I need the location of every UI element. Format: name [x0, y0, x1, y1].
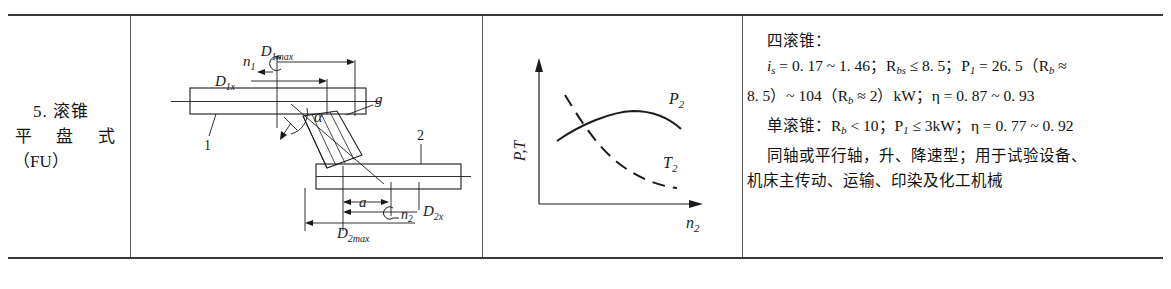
chart-series-t2-curve [565, 95, 677, 188]
diagram-label-d1max: D1max [260, 43, 294, 62]
diagram-label-d2x: D2x [422, 203, 444, 222]
chart-legend-t2: T2 [663, 154, 678, 174]
chart-legend-p2: P2 [668, 90, 685, 110]
diagram-label-d2max: D2max [336, 225, 370, 244]
chart-series-p2-curve [557, 111, 681, 141]
spec-line1-rest4: ≈ [1054, 57, 1066, 74]
diagram-label-a: a [359, 194, 367, 210]
spec-line3-mid: < 10；P [847, 117, 904, 134]
chart-y-axis-label: P,T [511, 140, 528, 163]
performance-chart-svg: P,T n2 P2 T2 [483, 16, 742, 257]
chart-y-axis-arrowhead [535, 58, 543, 72]
cell-type-name: 5. 滚锥 平 盘 式 （FU） [9, 16, 129, 257]
spec-line-ratio: is = 0. 17 ~ 1. 46；Rbs ≤ 8. 5；P1 = 26. 5… [747, 53, 1157, 83]
spec-line1-rest3: = 26. 5（R [975, 57, 1049, 74]
diagram-label-part-1: 1 [204, 138, 211, 153]
diagram-label-part-2: 2 [417, 128, 424, 143]
diagram-label-n1: n1 [243, 53, 256, 72]
spec-line3-prefix: 单滚锥：R [767, 117, 841, 134]
type-name-line-2: 平 盘 式 [9, 124, 129, 149]
spec-line1-rest2: ≤ 8. 5；P [906, 57, 970, 74]
diagram-label-alpha: α [314, 108, 323, 125]
spec-line-power-range: 8. 5）~ 104（Rb ≈ 2）kW；η = 0. 87 ~ 0. 93 [747, 83, 1157, 113]
cell-mechanical-diagram: D1max D1x n1 α g 1 2 a n2 D2x [131, 16, 482, 257]
diagram-label-g: g [375, 91, 383, 107]
mechanical-schematic-svg: D1max D1x n1 α g 1 2 a n2 D2x [131, 16, 482, 257]
spec-symbol-rbs-sub: bs [896, 65, 905, 76]
cell-specification-text: 四滚锥： is = 0. 17 ~ 1. 46；Rbs ≤ 8. 5；P1 = … [743, 16, 1163, 257]
spec-heading-four-cone: 四滚锥： [747, 28, 1157, 53]
spec-line2-rest: ≈ 2）kW；η = 0. 87 ~ 0. 93 [853, 87, 1034, 104]
type-name-line-1: 5. 滚锥 [9, 99, 129, 124]
type-name-line-3: （FU） [9, 149, 129, 174]
table-bottom-rule [8, 257, 1163, 259]
diagram-label-d1x: D1x [214, 73, 236, 92]
spec-line-application-1: 同轴或平行轴，升、降速型；用于试验设备、 [747, 143, 1157, 168]
cell-performance-chart: P,T n2 P2 T2 [483, 16, 742, 257]
spec-line3-rest: ≤ 3kW；η = 0. 77 ~ 0. 92 [909, 117, 1074, 134]
spec-line-single-cone: 单滚锥：Rb < 10；P1 ≤ 3kW；η = 0. 77 ~ 0. 92 [747, 113, 1157, 143]
spec-line2-start: 8. 5）~ 104（R [747, 87, 848, 104]
diagram-label-n2: n2 [401, 207, 413, 224]
chart-x-axis-arrowhead [689, 200, 703, 208]
spec-line-application-2: 机床主传动、运输、印染及化工机械 [747, 168, 1157, 193]
spec-line1-rest: = 0. 17 ~ 1. 46；R [775, 57, 896, 74]
table-row-container: 5. 滚锥 平 盘 式 （FU） [0, 0, 1171, 289]
chart-x-axis-label: n2 [686, 214, 700, 234]
